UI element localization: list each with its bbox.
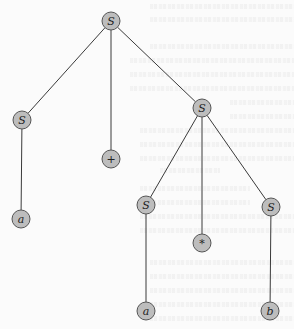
tree-edge — [207, 115, 266, 199]
node-label: S — [198, 102, 206, 115]
node-label: S — [267, 201, 275, 214]
tree-edge — [270, 216, 271, 302]
tree-node-S: S — [13, 111, 31, 129]
node-label: * — [199, 237, 205, 250]
tree-node-S: S — [102, 12, 120, 30]
tree-node-S: S — [193, 99, 211, 117]
tree-node-star: * — [193, 234, 211, 252]
tree-node-S: S — [262, 198, 280, 216]
tree-edge — [28, 28, 105, 114]
tree-edge — [21, 129, 22, 210]
node-label: S — [107, 15, 115, 28]
tree-node-a: a — [137, 302, 155, 320]
node-label: a — [143, 305, 150, 318]
node-label: + — [106, 153, 115, 166]
tree-edge — [151, 116, 198, 197]
node-label: a — [18, 213, 25, 226]
tree-edges — [21, 27, 271, 302]
node-label: S — [142, 199, 150, 212]
tree-node-plus: + — [102, 150, 120, 168]
parse-tree-diagram: SS+SaS*Sab — [0, 0, 294, 329]
tree-node-b: b — [261, 302, 279, 320]
node-label: b — [266, 305, 273, 318]
tree-node-S: S — [137, 196, 155, 214]
tree-edge — [118, 27, 196, 102]
node-label: S — [18, 114, 26, 127]
tree-node-a: a — [12, 210, 30, 228]
